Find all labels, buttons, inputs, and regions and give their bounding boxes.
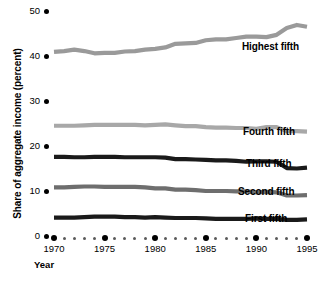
- y-tick-label: 20: [24, 140, 40, 152]
- y-tick-label: 30: [24, 95, 40, 107]
- x-axis-minor-dot: [265, 237, 268, 240]
- y-tick-dot-marker: [44, 144, 49, 149]
- y-tick-label: 0: [24, 230, 40, 242]
- x-axis-minor-dot: [113, 237, 116, 240]
- x-axis-minor-dot: [214, 237, 217, 240]
- x-axis-major-dot: [102, 235, 108, 241]
- series-label-highest-fifth: Highest fifth: [242, 41, 299, 52]
- x-axis-minor-dot: [194, 237, 197, 240]
- x-axis-minor-dot: [164, 237, 167, 240]
- x-tick-label-1985: 1985: [189, 243, 223, 255]
- y-tick-10: 10: [24, 185, 49, 197]
- y-axis-title: Share of aggregate income (percent): [12, 29, 23, 239]
- x-tick-label-1995: 1995: [290, 243, 319, 255]
- x-axis-minor-dot: [73, 237, 76, 240]
- y-tick-dot-marker: [44, 54, 49, 59]
- x-axis-major-dot: [51, 235, 57, 241]
- x-axis-minor-dot: [225, 237, 228, 240]
- x-axis-minor-dot: [174, 237, 177, 240]
- x-axis-major-dot: [203, 235, 209, 241]
- x-tick-label-1970: 1970: [37, 243, 71, 255]
- x-tick-label-1990: 1990: [239, 243, 273, 255]
- x-axis-minor-dot: [63, 237, 66, 240]
- y-tick-label: 10: [24, 185, 40, 197]
- x-axis-title: Year: [34, 259, 54, 270]
- x-axis-minor-dot: [295, 237, 298, 240]
- y-tick-label: 40: [24, 50, 40, 62]
- y-tick-40: 40: [24, 50, 49, 62]
- x-axis-major-dot: [304, 235, 310, 241]
- x-axis-minor-dot: [235, 237, 238, 240]
- x-axis-minor-dot: [184, 237, 187, 240]
- x-axis-minor-dot: [275, 237, 278, 240]
- income-share-line-chart: Share of aggregate income (percent) 5040…: [0, 0, 319, 281]
- y-tick-dot-marker: [44, 99, 49, 104]
- x-axis-minor-dot: [285, 237, 288, 240]
- x-axis-minor-dot: [83, 237, 86, 240]
- y-tick-30: 30: [24, 95, 49, 107]
- series-label-second-fifth: Second fifth: [238, 186, 295, 197]
- y-tick-dot-marker: [44, 189, 49, 194]
- y-tick-label: 50: [24, 5, 40, 17]
- series-label-fourth-fifth: Fourth fifth: [243, 126, 295, 137]
- x-axis-major-dot: [152, 235, 158, 241]
- x-axis-minor-dot: [133, 237, 136, 240]
- y-tick-20: 20: [24, 140, 49, 152]
- x-axis-major-dot: [253, 235, 259, 241]
- x-axis-minor-dot: [144, 237, 147, 240]
- y-tick-dot-marker: [44, 9, 49, 14]
- x-tick-label-1975: 1975: [88, 243, 122, 255]
- x-tick-label-1980: 1980: [138, 243, 172, 255]
- series-label-first-fifth: First fifth: [245, 213, 287, 224]
- series-label-third-fifth: Third fifth: [246, 158, 292, 169]
- x-axis-minor-dot: [93, 237, 96, 240]
- x-axis-minor-dot: [123, 237, 126, 240]
- x-axis-minor-dot: [245, 237, 248, 240]
- y-tick-50: 50: [24, 5, 49, 17]
